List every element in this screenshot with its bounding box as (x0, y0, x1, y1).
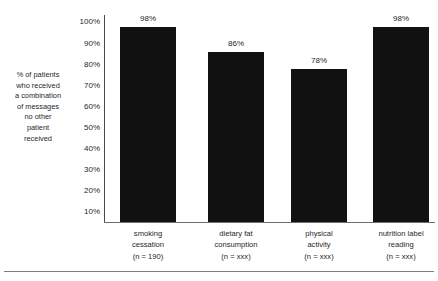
y-tick-label-50: 50% (66, 124, 100, 132)
category-label-2-line-2: consumption (194, 239, 278, 250)
bar-3 (291, 69, 347, 222)
category-label-3-line-2: activity (277, 239, 361, 250)
category-label-1-line-2: cessation (106, 239, 190, 250)
bar-4 (373, 27, 429, 222)
y-tick-label-100: 100% (66, 18, 100, 26)
bar-value-label-2: 86% (208, 40, 264, 48)
bar-value-label-1: 98% (120, 15, 176, 23)
category-label-3-line-1: physical (277, 228, 361, 239)
y-tick-label-40: 40% (66, 145, 100, 153)
bar-1 (120, 27, 176, 222)
y-tick-label-20: 20% (66, 187, 100, 195)
y-tick-label-10: 10% (66, 208, 100, 216)
bar-value-label-3: 78% (291, 57, 347, 65)
category-label-4-line-3: (n = xxx) (359, 251, 438, 262)
category-label-4-line-1: nutrition label (359, 228, 438, 239)
bar-2 (208, 52, 264, 222)
category-label-1-line-3: (n = 190) (106, 251, 190, 262)
y-axis-tick-labels: 100%90%80%70%60%50%40%30%20%10% (64, 0, 100, 281)
category-label-3-line-3: (n = xxx) (277, 251, 361, 262)
bar-value-label-4: 98% (373, 15, 429, 23)
y-tick-label-90: 90% (66, 40, 100, 48)
category-label-2-line-1: dietary fat (194, 228, 278, 239)
y-tick-label-80: 80% (66, 61, 100, 69)
category-label-2: dietary fatconsumption(n = xxx) (194, 228, 278, 262)
category-labels: smokingcessation(n = 190)dietary fatcons… (105, 228, 435, 270)
bars-container: 98%86%78%98% (105, 15, 435, 222)
y-tick-label-70: 70% (66, 82, 100, 90)
bottom-divider (4, 271, 434, 272)
y-tick-label-60: 60% (66, 103, 100, 111)
bar-chart-figure: % of patients who received a combination… (0, 0, 438, 281)
category-label-1-line-1: smoking (106, 228, 190, 239)
category-label-4-line-2: reading (359, 239, 438, 250)
category-label-1: smokingcessation(n = 190) (106, 228, 190, 262)
category-label-2-line-3: (n = xxx) (194, 251, 278, 262)
category-label-4: nutrition labelreading(n = xxx) (359, 228, 438, 262)
y-tick-label-30: 30% (66, 166, 100, 174)
category-label-3: physicalactivity(n = xxx) (277, 228, 361, 262)
x-axis-line (104, 222, 435, 223)
